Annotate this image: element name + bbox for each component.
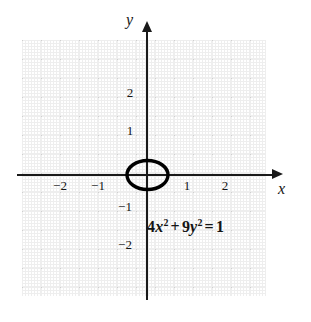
x-axis-label: x: [278, 180, 285, 198]
equation-plus-operator: +: [169, 218, 182, 235]
equation-exponent-y: 2: [197, 217, 202, 228]
x-tick-label-pos1: 1: [175, 178, 199, 194]
y-tick-label-neg2: −2: [113, 237, 137, 253]
graph-figure: x y −2 −1 1 2 2 1 −1 −2 4x2+9y2=1: [0, 0, 311, 322]
y-axis-label: y: [126, 11, 133, 29]
y-tick-label-neg1: −1: [113, 199, 137, 215]
y-tick-label-pos1: 1: [118, 123, 142, 139]
equation-coefficient-x: 4: [147, 218, 155, 235]
x-tick-label-pos2: 2: [213, 178, 237, 194]
x-tick-label-neg1: −1: [86, 178, 110, 194]
equation-equals-operator: =: [203, 218, 216, 235]
equation-coefficient-y: 9: [182, 218, 190, 235]
equation-exponent-x: 2: [163, 217, 168, 228]
equation-annotation: 4x2+9y2=1: [147, 217, 224, 236]
y-tick-label-pos2: 2: [118, 85, 142, 101]
grid-dots: [22, 40, 266, 296]
equation-right-side: 1: [216, 218, 224, 235]
x-tick-label-neg2: −2: [48, 178, 72, 194]
y-axis-arrow-icon: [142, 21, 152, 32]
y-axis-line: [146, 30, 148, 300]
x-axis-arrow-icon: [272, 169, 283, 179]
